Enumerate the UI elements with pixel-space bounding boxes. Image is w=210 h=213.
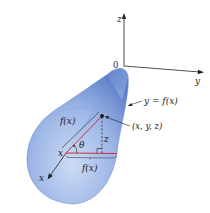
- slant-radius-label: f(x): [59, 116, 76, 126]
- curve-label: y = f(x): [143, 96, 178, 106]
- curve-leader-arrow: [128, 101, 143, 106]
- z-axis-label: z: [116, 14, 122, 24]
- cone-surface: [27, 66, 128, 204]
- surface-point: [100, 114, 104, 118]
- point-label: (x, y, z): [132, 121, 162, 131]
- z-axis: [122, 13, 126, 66]
- x-position-label: x: [58, 148, 63, 158]
- y-axis-label: y: [194, 76, 201, 86]
- horizontal-radius-label: f(x): [81, 163, 98, 173]
- y-axis: [124, 66, 204, 74]
- height-label: z: [103, 134, 109, 144]
- origin-label: 0: [113, 60, 118, 70]
- diagram-canvas: z 0 y x y = f(x) (x, y, z) f(x) f(x) θ z…: [0, 0, 210, 213]
- angle-label: θ: [79, 140, 85, 150]
- x-axis-label: x: [39, 173, 44, 183]
